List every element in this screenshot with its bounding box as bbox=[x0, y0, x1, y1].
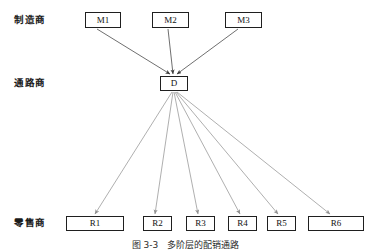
node-r3: R3 bbox=[186, 216, 215, 231]
node-m1: M1 bbox=[85, 12, 121, 28]
tier-label-distributor: 通路商 bbox=[14, 78, 46, 88]
manufacturer-to-distributor-edges bbox=[97, 29, 238, 74]
node-r6: R6 bbox=[308, 216, 364, 231]
node-r1: R1 bbox=[66, 216, 124, 231]
node-d: D bbox=[160, 76, 188, 91]
node-r4: R4 bbox=[228, 216, 257, 231]
node-m3: M3 bbox=[225, 12, 262, 28]
tier-label-retailer: 零售商 bbox=[14, 218, 46, 228]
figure-caption: 图 3-3 多阶层的配销通路 bbox=[0, 239, 371, 251]
supply-chain-diagram: 制造商 通路商 零售商 M1 M2 M3 D R1 R2 R3 R4 R5 R6… bbox=[0, 0, 371, 251]
tier-label-manufacturer: 制造商 bbox=[14, 15, 46, 25]
node-r2: R2 bbox=[143, 216, 172, 231]
node-r5: R5 bbox=[267, 216, 296, 231]
distributor-to-retailer-edges bbox=[95, 92, 330, 214]
node-m2: M2 bbox=[152, 12, 189, 28]
edge-layer bbox=[0, 0, 371, 251]
